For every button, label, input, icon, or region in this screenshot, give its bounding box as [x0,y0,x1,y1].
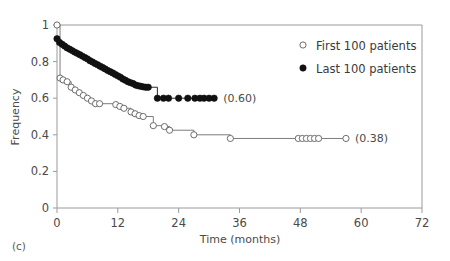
data-point-marker [211,95,217,101]
x-tick-label: 48 [293,216,308,230]
x-tick-label: 60 [354,216,369,230]
series-first-100 [54,22,349,142]
y-tick-label: 0.6 [31,91,49,105]
data-point-marker [175,95,181,101]
x-tick-label: 36 [232,216,247,230]
data-point-marker [154,95,160,101]
legend-label: First 100 patients [316,39,416,53]
data-point-marker [54,22,60,28]
data-point-marker [64,79,70,85]
data-point-marker [343,135,349,141]
step-line [57,39,214,98]
x-tick-label: 0 [53,216,60,230]
x-tick-label: 24 [171,216,186,230]
x-axis-title: Time (months) [199,233,280,246]
x-tick-label: 12 [111,216,126,230]
y-tick-label: 0.2 [31,164,49,178]
data-point-marker [121,105,127,111]
data-point-marker [96,101,102,107]
y-tick-label: 0 [42,201,49,215]
y-axis-title: Frequency [9,88,22,145]
annotation-first-100: (0.38) [355,132,388,145]
data-point-marker [150,123,156,129]
y-axis-ticks: 00.20.40.60.81 [31,18,57,215]
chart-legend: First 100 patientsLast 100 patients [300,39,417,76]
survival-curve-chart: 00.20.40.60.81 0122436486072 (0.38)(0.60… [0,0,450,261]
data-point-marker [315,135,321,141]
figure-panel: 00.20.40.60.81 0122436486072 (0.38)(0.60… [0,0,450,261]
data-point-marker [227,135,233,141]
legend-label: Last 100 patients [316,62,416,76]
y-tick-label: 0.4 [31,128,49,142]
data-point-marker [191,132,197,138]
annotation-last-100: (0.60) [223,92,256,105]
data-point-marker [185,95,191,101]
panel-label: (c) [12,240,26,252]
legend-marker-open-circle [300,42,306,48]
data-point-marker [165,95,171,101]
x-axis-ticks: 0122436486072 [53,208,429,230]
data-point-marker [145,84,151,90]
x-tick-label: 72 [415,216,430,230]
y-tick-label: 1 [42,18,49,32]
y-tick-label: 0.8 [31,55,49,69]
legend-marker-filled-circle [300,65,306,71]
series-layer [54,22,349,142]
data-point-marker [140,113,146,119]
data-point-marker [166,127,172,133]
